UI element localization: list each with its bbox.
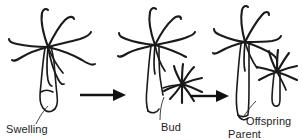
offspring-body-column	[272, 74, 280, 106]
swelling-leader-line	[36, 106, 48, 124]
stage-3-parent-tentacle-crown	[213, 6, 281, 71]
label-swelling: Swelling	[6, 124, 48, 135]
arrow-stage2-to-stage3	[190, 90, 229, 102]
offspring-leader-line	[244, 101, 256, 116]
label-offspring: Offspring	[246, 116, 291, 127]
stage-1-swelling-hydra	[9, 9, 95, 124]
stage-3-parent-body-column	[236, 44, 249, 120]
bud-leader-line	[160, 97, 164, 120]
arrow-stage1-to-stage2	[80, 89, 126, 101]
stage-2-bud-hydra	[118, 8, 202, 120]
stage-3-parent-hydra	[213, 6, 281, 120]
offspring-tentacle-crown	[257, 50, 297, 90]
label-bud: Bud	[161, 122, 181, 133]
hydra-budding-figure: Swelling Bud Offspring Parent	[0, 0, 302, 140]
label-parent: Parent	[228, 129, 261, 140]
stage-1-tentacle-crown	[9, 9, 95, 86]
